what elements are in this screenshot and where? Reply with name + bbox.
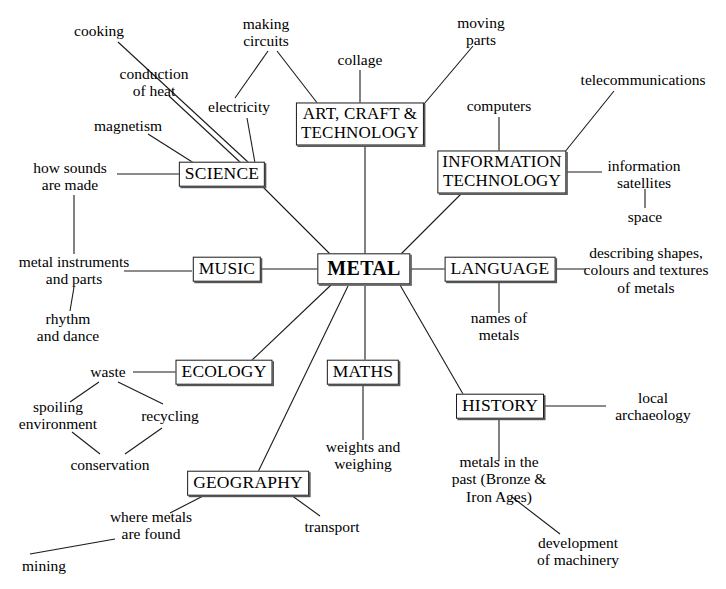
leaf-node-cooking[interactable]: cooking (72, 22, 126, 39)
leaf-node-computers[interactable]: computers (465, 97, 534, 114)
edge-metal-to-science (262, 186, 330, 254)
leaf-node-telecommunications[interactable]: telecommunications (579, 71, 708, 88)
leaf-node-recycling[interactable]: recycling (139, 407, 201, 424)
subject-node-language[interactable]: LANGUAGE (445, 257, 556, 282)
leaf-node-moving-parts[interactable]: moving parts (455, 14, 506, 49)
edge-it-to-telecommunications (564, 91, 614, 153)
subject-node-science[interactable]: SCIENCE (179, 162, 265, 187)
leaf-node-transport[interactable]: transport (302, 518, 361, 535)
leaf-node-magnetism[interactable]: magnetism (92, 117, 164, 134)
subject-node-history[interactable]: HISTORY (456, 394, 544, 419)
edge-art-to-moving-parts (424, 46, 473, 104)
subject-node-it[interactable]: INFORMATION TECHNOLOGY (437, 150, 566, 193)
leaf-node-describing[interactable]: describing shapes, colours and textures … (582, 244, 711, 296)
subject-node-music[interactable]: MUSIC (193, 257, 261, 282)
edge-waste-to-recycling (118, 382, 163, 404)
leaf-node-where-metals[interactable]: where metals are found (108, 508, 194, 543)
leaf-node-weights[interactable]: weights and weighing (324, 438, 402, 473)
leaf-node-spoiling[interactable]: spoiling environment (17, 398, 99, 433)
leaf-node-waste[interactable]: waste (88, 363, 127, 380)
leaf-node-how-sounds[interactable]: how sounds are made (31, 159, 109, 194)
leaf-node-mining[interactable]: mining (20, 557, 68, 574)
edge-where-metals-to-mining (30, 539, 115, 554)
edge-metal-instruments-to-rhythm (70, 287, 74, 311)
edge-geography-to-transport (291, 495, 320, 516)
subject-node-art[interactable]: ART, CRAFT & TECHNOLOGY (296, 102, 424, 145)
leaf-node-metals-past[interactable]: metals in the past (Bronze & Iron Ages) (450, 453, 549, 505)
leaf-node-info-satellites[interactable]: information satellites (605, 157, 682, 192)
edge-metal-to-history (400, 285, 463, 394)
leaf-node-electricity[interactable]: electricity (206, 98, 272, 115)
mind-map-canvas: METALSCIENCEART, CRAFT & TECHNOLOGYINFOR… (0, 0, 726, 589)
leaf-node-making-circuits[interactable]: making circuits (241, 15, 292, 50)
edge-spoiling-to-conservation (72, 432, 100, 454)
edge-recycling-to-conservation (125, 428, 162, 454)
edge-science-to-electricity (247, 118, 255, 163)
leaf-node-development[interactable]: development of machinery (535, 534, 621, 569)
subject-node-maths[interactable]: MATHS (327, 360, 399, 385)
edge-science-to-magnetism (148, 134, 197, 165)
edge-art-to-making-circuits (277, 51, 318, 104)
edge-metal-to-it (400, 193, 462, 255)
leaf-node-names-of-metals[interactable]: names of metals (469, 309, 529, 344)
leaf-node-rhythm[interactable]: rhythm and dance (35, 310, 101, 345)
subject-node-geography[interactable]: GEOGRAPHY (187, 471, 309, 496)
leaf-node-conduction[interactable]: conduction of heat (118, 65, 191, 100)
leaf-node-metal-instruments[interactable]: metal instruments and parts (17, 253, 132, 288)
leaf-node-collage[interactable]: collage (336, 51, 385, 68)
leaf-node-space[interactable]: space (626, 208, 664, 225)
leaf-node-conservation[interactable]: conservation (68, 456, 151, 473)
edge-metal-to-ecology (250, 285, 331, 362)
center-node-metal[interactable]: METAL (317, 253, 410, 284)
leaf-node-local-archaeology[interactable]: local archaeology (613, 389, 693, 424)
edge-electricity-to-making-circuits (235, 51, 268, 98)
subject-node-ecology[interactable]: ECOLOGY (175, 360, 272, 385)
